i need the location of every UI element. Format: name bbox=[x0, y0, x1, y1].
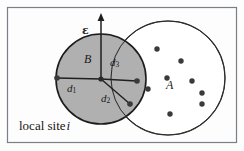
caption-text: local site bbox=[19, 118, 66, 133]
center-point-B bbox=[98, 76, 103, 81]
distance-1-label: d1 bbox=[67, 83, 76, 95]
distance-2-label: d2 bbox=[101, 93, 110, 105]
figure-container: ε B d1 d2 d3 A local sitei bbox=[0, 0, 244, 151]
data-point bbox=[154, 46, 159, 51]
data-point bbox=[167, 111, 172, 116]
epsilon-label: ε bbox=[82, 25, 89, 36]
ball-center-label: B bbox=[84, 53, 91, 65]
distance-2-subscript: 2 bbox=[107, 96, 111, 105]
distance-1-subscript: 1 bbox=[73, 86, 77, 95]
point-set-label: A bbox=[166, 79, 173, 91]
data-point bbox=[199, 90, 204, 95]
caption-local-site: local sitei bbox=[19, 119, 70, 132]
distance-3-subscript: 3 bbox=[116, 60, 120, 69]
distance-3-label: d3 bbox=[110, 57, 119, 69]
data-point bbox=[145, 86, 150, 91]
site-index: i bbox=[66, 118, 71, 133]
data-point bbox=[178, 58, 183, 63]
data-point bbox=[199, 101, 204, 106]
data-point bbox=[189, 78, 194, 83]
